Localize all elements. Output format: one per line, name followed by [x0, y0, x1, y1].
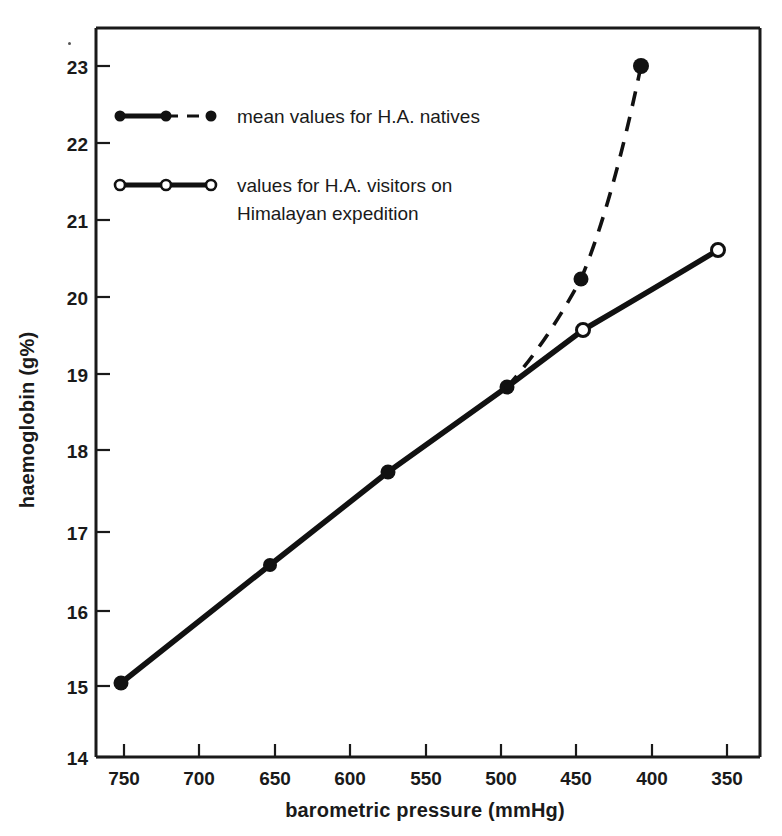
x-tick-label-750: 750	[108, 768, 140, 789]
y-tick-label-14: 14	[67, 748, 89, 769]
y-axis-ticks	[96, 66, 110, 757]
legend-natives-marker-end-icon	[206, 111, 217, 122]
data-point-natives-5	[633, 58, 649, 74]
legend-item-visitors[interactable]: values for H.A. visitors on Himalayan ex…	[115, 175, 452, 224]
y-tick-label-20: 20	[67, 288, 88, 309]
legend-visitors-marker-start-icon	[115, 180, 125, 190]
figure-canvas: 23 22 21 20 19 18 17 16 15 14 750 700 65…	[0, 0, 782, 836]
x-axis-ticks	[124, 744, 727, 757]
y-tick-label-21: 21	[67, 211, 89, 232]
plot-svg: 23 22 21 20 19 18 17 16 15 14 750 700 65…	[0, 0, 782, 836]
x-tick-label-550: 550	[410, 768, 442, 789]
data-point-visitors-2	[712, 244, 725, 257]
data-point-natives-4	[574, 272, 589, 287]
x-tick-label-600: 600	[334, 768, 366, 789]
y-tick-labels: 23 22 21 20 19 18 17 16 15 14	[67, 57, 89, 769]
y-tick-label-15: 15	[67, 677, 89, 698]
x-tick-label-350: 350	[711, 768, 743, 789]
legend-visitors-marker-mid-icon	[161, 180, 171, 190]
y-tick-label-16: 16	[67, 602, 88, 623]
y-axis-title: haemoglobin (g%)	[16, 332, 38, 509]
x-tick-label-400: 400	[636, 768, 668, 789]
data-point-visitors-1	[577, 324, 590, 337]
data-point-natives-2	[381, 465, 396, 480]
y-tick-label-22: 22	[67, 134, 88, 155]
y-tick-label-19: 19	[67, 365, 88, 386]
x-tick-label-450: 450	[560, 768, 592, 789]
data-point-natives-1	[263, 558, 277, 572]
series-natives	[114, 58, 650, 691]
y-tick-label-23: 23	[67, 57, 88, 78]
legend-visitors-label-line2: Himalayan expedition	[237, 203, 419, 224]
legend-natives-marker-start-icon	[115, 111, 126, 122]
x-tick-label-700: 700	[183, 768, 215, 789]
legend-visitors-marker-end-icon	[206, 180, 216, 190]
chart-figure: 23 22 21 20 19 18 17 16 15 14 750 700 65…	[0, 0, 782, 836]
axis-frame	[96, 28, 760, 757]
legend: mean values for H.A. natives values for …	[115, 106, 480, 224]
x-tick-label-500: 500	[485, 768, 517, 789]
legend-visitors-label-line1: values for H.A. visitors on	[237, 175, 452, 196]
x-tick-labels: 750 700 650 600 550 500 450 400 350	[108, 768, 743, 789]
series-visitors	[507, 244, 725, 388]
y-tick-label-17: 17	[67, 523, 88, 544]
legend-natives-marker-mid-icon	[161, 111, 172, 122]
series-natives-solid-line	[121, 387, 507, 683]
data-point-natives-0	[114, 676, 129, 691]
legend-item-natives[interactable]: mean values for H.A. natives	[115, 106, 480, 127]
x-tick-label-650: 650	[259, 768, 291, 789]
legend-natives-label: mean values for H.A. natives	[237, 106, 480, 127]
series-visitors-line	[507, 250, 718, 387]
scan-artifact-speck	[68, 42, 71, 45]
x-axis-title: barometric pressure (mmHg)	[285, 799, 565, 821]
y-tick-label-18: 18	[67, 441, 88, 462]
